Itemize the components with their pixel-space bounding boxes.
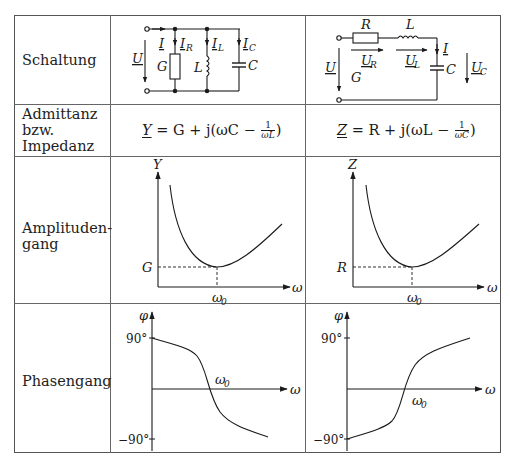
- y-axis-label: φ: [334, 308, 344, 323]
- inductor-symbol: [207, 56, 209, 76]
- current-label: I: [158, 36, 165, 51]
- conductance-symbol: [170, 54, 180, 79]
- current-l-subscript: L: [217, 43, 224, 53]
- top-tick-label: 90°: [126, 332, 147, 346]
- phase-plot-parallel-labels: φ 90° −90° ω ω 0: [118, 308, 301, 447]
- voltage-r-subscript: R: [369, 60, 377, 70]
- terminal-top: [337, 36, 341, 40]
- inductance-label: L: [193, 60, 203, 75]
- resonance-subscript: 0: [221, 297, 227, 307]
- x-axis-label: ω: [292, 280, 303, 295]
- y-axis-label: Z: [347, 157, 358, 172]
- g-label: G: [351, 70, 361, 85]
- bottom-tick-label: −90°: [118, 433, 149, 447]
- amplitude-plot-series-labels: Z R ω ω 0: [336, 157, 498, 307]
- current-l-label: I: [211, 36, 218, 51]
- amplitude-plot-parallel: [158, 172, 290, 287]
- x-axis-label: ω: [290, 382, 301, 397]
- y-axis-label: φ: [139, 308, 149, 323]
- resistance-label: R: [360, 17, 371, 32]
- capacitance-label: C: [248, 58, 258, 73]
- x-axis-label: ω: [487, 280, 498, 295]
- current-c-subscript: C: [249, 43, 256, 53]
- diagram-canvas: U I I R I L I C G L C R L I: [0, 0, 510, 467]
- resistor-symbol: [353, 33, 378, 43]
- min-value-label: R: [336, 260, 347, 275]
- resonance-subscript: 0: [421, 400, 427, 410]
- amplitude-curve: [366, 185, 479, 267]
- x-axis-label: ω: [485, 382, 496, 397]
- terminal-bottom: [337, 98, 341, 102]
- bottom-tick-label: −90°: [313, 433, 344, 447]
- amplitude-plot-series: [353, 172, 484, 287]
- phase-plot-series-labels: φ 90° −90° ω ω 0: [313, 308, 496, 447]
- capacitance-label: C: [446, 62, 456, 77]
- current-c-label: I: [242, 36, 249, 51]
- amplitude-plot-parallel-labels: Y G ω ω 0: [142, 157, 303, 307]
- inductor-symbol: [398, 36, 418, 38]
- inductance-label: L: [405, 17, 415, 32]
- terminal-top: [145, 27, 149, 31]
- resonance-subscript: 0: [416, 297, 422, 307]
- min-value-label: G: [142, 260, 152, 275]
- resonance-subscript: 0: [224, 379, 230, 389]
- voltage-label: U: [325, 60, 337, 75]
- voltage-c-subscript: C: [480, 67, 487, 77]
- series-circuit-labels: R L I U R U L U G C U C: [325, 17, 487, 85]
- current-label: I: [442, 41, 449, 56]
- top-tick-label: 90°: [321, 332, 342, 346]
- voltage-label: U: [132, 51, 144, 66]
- current-r-label: I: [179, 36, 186, 51]
- phase-plot-series: [344, 312, 482, 451]
- y-axis-label: Y: [153, 157, 163, 172]
- voltage-l-subscript: L: [413, 60, 420, 70]
- phase-curve: [152, 338, 268, 437]
- conductance-label: G: [157, 59, 167, 74]
- current-r-subscript: R: [185, 43, 193, 53]
- amplitude-curve: [170, 185, 282, 267]
- terminal-bottom: [145, 89, 149, 93]
